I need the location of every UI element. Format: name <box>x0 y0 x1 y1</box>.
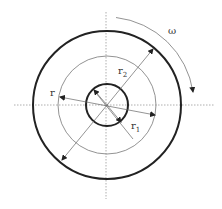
diagram-canvas: ω r r1 r2 <box>0 0 222 209</box>
r1-arrow-upper <box>94 90 107 105</box>
r2-label-subscript: 2 <box>123 71 127 79</box>
r-label: r <box>50 88 55 98</box>
diagram-svg <box>0 0 222 209</box>
r1-label: r1 <box>131 121 140 131</box>
r2-dimension-line <box>62 49 153 160</box>
omega-label: ω <box>168 26 176 36</box>
r2-label: r2 <box>118 66 127 76</box>
r1-label-subscript: 1 <box>136 126 140 134</box>
rotation-arc <box>116 18 193 93</box>
